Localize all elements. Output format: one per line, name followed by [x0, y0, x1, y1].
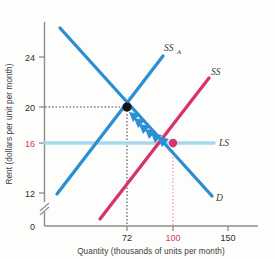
point-initial-equilibrium[interactable] [122, 102, 131, 111]
origin-label: 0 [30, 222, 35, 232]
x-tick-label-150: 150 [220, 233, 235, 243]
x-tick-label-100: 100 [165, 233, 180, 243]
x-axis-title: Quantity (thousands of units per month) [77, 247, 225, 256]
y-tick-label-16: 16 [25, 139, 35, 149]
x-tick-label-72: 72 [122, 233, 132, 243]
curve-ss-supply[interactable] [100, 78, 209, 219]
curve-label-ls: LS [218, 138, 229, 148]
y-tick-label-24: 24 [25, 53, 35, 63]
y-axis-ticks [39, 57, 45, 193]
point-long-run-equilibrium[interactable] [169, 139, 177, 147]
y-tick-label-12: 12 [25, 189, 35, 199]
y-tick-label-20: 20 [25, 103, 35, 113]
curve-label-ss: SS [211, 67, 221, 77]
curve-label-ssa-subscript: A [176, 48, 182, 55]
x-axis-ticks [127, 226, 228, 231]
curve-label-ssa: SS [164, 43, 174, 53]
y-axis-title: Rent (dollars per unit per month) [5, 63, 14, 184]
chart-svg: 24 20 16 12 0 72 100 150 Quantity (thous… [0, 0, 275, 259]
rent-supply-demand-chart: 24 20 16 12 0 72 100 150 Quantity (thous… [0, 0, 275, 259]
curve-label-d: D [215, 193, 223, 203]
